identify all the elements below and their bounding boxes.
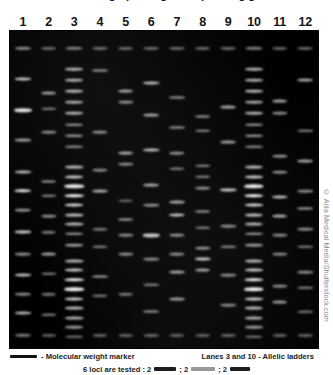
gel-band [271,196,287,199]
lane-number-7: 7 [164,14,190,30]
gel-band [245,112,263,115]
gel-band [143,148,159,151]
lane-number-4: 4 [87,14,113,30]
gel-band [195,210,211,213]
gel-band [65,123,83,126]
gel-band [195,47,210,49]
lane-number-2: 2 [36,14,62,30]
gel-band [245,123,263,126]
gel-band [297,160,313,163]
gel-band [65,175,84,178]
gel-band [65,307,83,310]
gel-band [41,131,56,134]
gel-band [41,253,57,256]
gel-band [298,190,313,193]
gel-band [144,47,159,49]
gel-band [272,155,287,158]
gel-band [195,226,210,229]
legend: - Molecular weight marker Lanes 3 and 10… [0,350,333,375]
gel-band [195,176,210,179]
gel-band [118,199,133,201]
gel-band [143,204,158,207]
gel-band [14,171,31,174]
gel-band [221,47,236,49]
gel-lane-5 [113,31,139,348]
gel-band [195,247,210,250]
gel-band [272,47,287,49]
legend-loci-prefix: 6 loci are tested : 2 [83,365,151,374]
gel-band [272,99,288,102]
lane-number-row: 123456789101112 [10,14,318,30]
gel-band [64,288,84,291]
gel-band [245,101,263,104]
gel-band [118,101,133,104]
gel-band [41,313,56,316]
gel-band [14,274,31,277]
watermark-text: © Alila Medical Media/Shutterstock.com [320,188,332,338]
gel-band [118,334,132,336]
legend-separator-2: ; 2 [218,365,227,374]
gel-band [65,244,83,247]
gel-band [65,233,83,236]
gel-band [244,278,264,281]
gel-band [195,115,211,118]
legend-separator-1: ; 2 [179,365,188,374]
gel-band [169,271,185,274]
gel-band [92,169,107,172]
gel-band [245,166,263,169]
gel-band [65,134,83,137]
lane-number-1: 1 [10,14,36,30]
gel-band [92,190,108,193]
gel-band [65,79,83,82]
gel-band [143,114,159,117]
gel-band [272,301,288,304]
gel-band [65,259,83,262]
gel-band [118,90,134,93]
gel-band [245,223,263,226]
gel-band [221,274,236,277]
gel-lane-4 [87,31,113,348]
gel-band [92,47,107,49]
gel-band [272,215,288,218]
lane-number-11: 11 [267,14,293,30]
gel-band [245,326,263,329]
gel-band [14,231,31,234]
gel-band [221,304,236,307]
gel-band [65,223,83,226]
gel-band [143,310,159,313]
gel-band [245,47,262,49]
lane-number-9: 9 [215,14,241,30]
legend-marker-entry: - Molecular weight marker [10,350,135,363]
gel-band [245,307,263,310]
gel-band [92,294,107,297]
gel-band [195,269,211,272]
gel-band [14,108,32,112]
gel-band [195,334,209,336]
gel-band [298,130,313,133]
gel-band [118,253,133,256]
gel-band [118,218,134,221]
gel-band [245,145,263,148]
gel-band [245,233,263,236]
gel-band [64,194,84,197]
gel-band [143,234,159,237]
gel-band [14,139,31,142]
gel-lane-container [10,31,318,348]
gel-band [298,228,313,231]
gel-band [245,90,263,93]
locus-c-swatch-icon [230,367,250,370]
gel-band [245,259,263,262]
gel-band [245,68,263,71]
gel-band [144,334,158,336]
gel-band [245,134,263,137]
gel-band [272,112,287,115]
gel-band [221,225,236,228]
gel-band [64,185,84,188]
gel-band [41,107,56,110]
gel-band [118,47,133,49]
lane-number-6: 6 [138,14,164,30]
gel-lane-12 [292,31,318,348]
gel-band [220,188,236,191]
gel-band [272,253,287,256]
gel-band [118,234,133,237]
